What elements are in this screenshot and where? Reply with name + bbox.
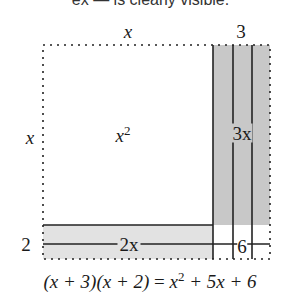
equation-rhs: + 5x + 6 bbox=[184, 271, 256, 292]
factoring-equation: (x + 3)(x + 2) = x2 + 5x + 6 bbox=[43, 269, 256, 293]
top-label-3: 3 bbox=[236, 22, 246, 41]
side-label-2: 2 bbox=[21, 235, 31, 254]
region-label-6: 6 bbox=[237, 237, 247, 256]
region-label-2x: 2x bbox=[118, 235, 141, 254]
area-model-diagram bbox=[0, 0, 301, 297]
equation-lhs: (x + 3)(x + 2) bbox=[43, 271, 149, 292]
side-label-x: x bbox=[26, 128, 34, 147]
top-label-x: x bbox=[124, 22, 132, 41]
region-label-3x: 3x bbox=[232, 124, 253, 143]
region-label-x-squared: x2 bbox=[116, 124, 131, 145]
